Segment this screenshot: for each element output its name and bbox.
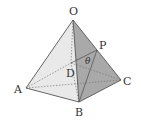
face-obc bbox=[73, 20, 121, 102]
label-d: D bbox=[66, 67, 75, 80]
angle-theta-label: θ bbox=[85, 56, 91, 66]
label-a: A bbox=[13, 83, 23, 96]
label-p: P bbox=[99, 39, 107, 52]
pyramid-diagram: O P D C B A θ bbox=[0, 0, 141, 128]
label-b: B bbox=[75, 106, 83, 119]
label-o: O bbox=[69, 5, 78, 18]
label-c: C bbox=[123, 75, 131, 88]
